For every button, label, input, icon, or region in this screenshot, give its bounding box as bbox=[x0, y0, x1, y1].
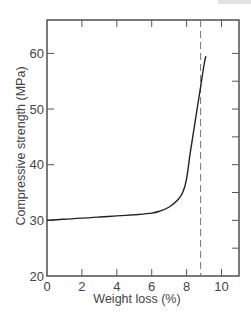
y-tick-label: 30 bbox=[30, 213, 44, 228]
y-tick-label: 40 bbox=[30, 157, 44, 172]
plot-frame bbox=[47, 20, 239, 276]
y-tick-labels: 2030405060 bbox=[30, 46, 44, 284]
x-axis-label: Weight loss (%) bbox=[93, 292, 180, 306]
x-tick-label: 10 bbox=[214, 279, 228, 294]
x-tick-label: 0 bbox=[43, 279, 50, 294]
x-tick-label: 8 bbox=[183, 279, 190, 294]
y-tick-label: 60 bbox=[30, 46, 44, 61]
y-tick-label: 20 bbox=[30, 269, 44, 284]
chart: 0246810 2030405060 Weight loss (%) Compr… bbox=[0, 0, 251, 320]
y-tick-label: 50 bbox=[30, 102, 44, 117]
y-axis-label: Compressive strength (MPa) bbox=[14, 66, 28, 225]
axis-ticks bbox=[47, 20, 239, 276]
strength-curve bbox=[47, 56, 206, 220]
x-tick-label: 2 bbox=[78, 279, 85, 294]
